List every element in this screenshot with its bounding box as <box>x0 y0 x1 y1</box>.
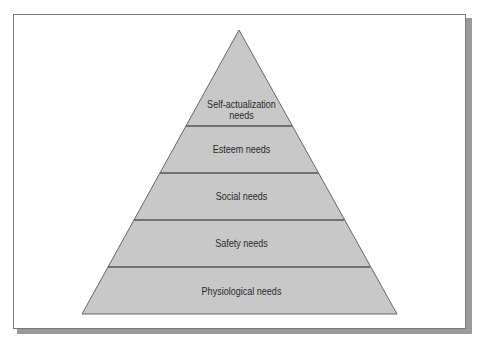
level-self-actualization-line2: needs <box>34 110 449 121</box>
level-esteem: Esteem needs <box>34 144 449 155</box>
pyramid-shape <box>82 30 397 314</box>
level-physiological: Physiological needs <box>34 286 449 297</box>
level-safety: Safety needs <box>34 238 449 249</box>
level-social: Social needs <box>34 191 449 202</box>
